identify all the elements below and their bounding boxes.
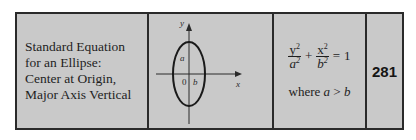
formula-cell: y2 a2 + x2 b2 = 1 where a > b (272, 14, 365, 128)
condition-prefix: where (289, 84, 321, 99)
title-line: for an Ellipse: (25, 55, 131, 71)
semi-minor-label: b (193, 77, 198, 87)
standard-equation: y2 a2 + x2 b2 = 1 (288, 43, 350, 70)
y-axis-label: y (179, 18, 184, 28)
condition-lhs: a (324, 84, 331, 99)
plus-sign: + (305, 48, 312, 64)
page-number: 281 (372, 63, 397, 80)
x-axis-arrow-icon (235, 71, 242, 77)
condition-rhs: b (344, 84, 351, 99)
title-line: Center at Origin, (25, 71, 131, 87)
title-line: Standard Equation (25, 39, 131, 55)
semi-major-label: a (180, 53, 185, 63)
title-cell: Standard Equation for an Ellipse: Center… (17, 14, 147, 128)
exponent: 2 (296, 42, 300, 51)
x-axis-label: x (235, 79, 240, 89)
origin-label: 0 (182, 77, 187, 87)
fraction-x-over-b: x2 b2 (316, 43, 329, 70)
equals-sign: = (333, 48, 340, 64)
entry-title: Standard Equation for an Ellipse: Center… (25, 39, 131, 103)
exponent: 2 (296, 56, 300, 65)
diagram-cell: y x a 0 b (147, 14, 272, 128)
rhs-value: 1 (344, 48, 351, 64)
y-axis-arrow-icon (186, 23, 192, 31)
page-cell: 281 (365, 14, 402, 128)
exponent: 2 (324, 56, 328, 65)
exponent: 2 (324, 42, 328, 51)
condition-text: where a > b (289, 84, 351, 100)
fraction-y-over-a: y2 a2 (288, 43, 301, 70)
ellipse-diagram: y x a 0 b (149, 14, 272, 128)
title-line: Major Axis Vertical (25, 87, 131, 103)
condition-operator: > (333, 84, 340, 99)
reference-table-row: Standard Equation for an Ellipse: Center… (15, 12, 404, 130)
